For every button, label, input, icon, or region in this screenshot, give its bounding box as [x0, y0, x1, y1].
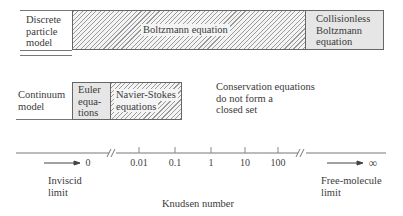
- continuum-bottom-rule: [16, 119, 72, 120]
- conservation-note: Conservation equations do not form a clo…: [216, 81, 315, 116]
- knudsen-axis: [0, 140, 403, 180]
- tick-label-0.1: 0.1: [169, 157, 182, 168]
- axis-infinity-label: ∞: [369, 156, 378, 171]
- collisionless-boltzmann-label: Collisionless Boltzmann equation: [316, 13, 370, 48]
- arrow-right-icon: [44, 161, 363, 165]
- axis-title: Knudsen number: [162, 198, 234, 210]
- euler-equations-region: Euler equa- tions: [72, 82, 111, 120]
- discrete-bottom-rule: [20, 50, 72, 51]
- tick-label-100: 100: [271, 157, 286, 168]
- tick-label-10: 10: [240, 157, 250, 168]
- boltzmann-equation-label: Boltzmann equation: [141, 24, 230, 36]
- axis-zero-label: 0: [86, 157, 91, 168]
- collisionless-boltzmann-region: Collisionless Boltzmann equation: [305, 10, 384, 50]
- free-molecule-limit-label: Free-molecule limit: [321, 175, 382, 198]
- discrete-bottom-rule-2: [20, 55, 72, 56]
- continuum-model-label: Continuum model: [18, 89, 65, 112]
- navier-stokes-label: Navier-Stokes equations: [114, 89, 178, 112]
- discrete-top-rule: [20, 10, 72, 11]
- tick-label-1: 1: [209, 157, 214, 168]
- euler-equations-label: Euler equa- tions: [78, 84, 101, 119]
- inviscid-limit-label: Inviscid limit: [48, 175, 82, 198]
- discrete-particle-model-label: Discrete particle model: [26, 14, 61, 49]
- navier-stokes-region: Navier-Stokes equations: [110, 82, 182, 120]
- boltzmann-equation-region: Boltzmann equation: [72, 10, 306, 50]
- tick-label-0.01: 0.01: [130, 157, 148, 168]
